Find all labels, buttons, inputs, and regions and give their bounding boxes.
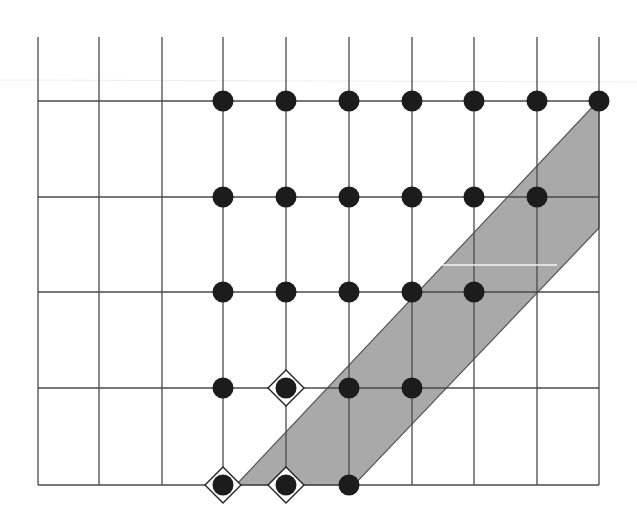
diagram-canvas	[0, 0, 637, 519]
lattice-point	[339, 187, 360, 208]
lattice-point	[527, 91, 548, 112]
lattice-point	[339, 378, 360, 399]
lattice-point	[213, 282, 234, 303]
lattice-point	[339, 282, 360, 303]
lattice-point	[276, 378, 297, 399]
lattice-point	[276, 475, 297, 496]
lattice-point	[276, 91, 297, 112]
lattice-point	[527, 187, 548, 208]
lattice-point	[402, 378, 423, 399]
lattice-point	[464, 282, 485, 303]
lattice-point	[213, 91, 234, 112]
lattice-point	[276, 282, 297, 303]
lattice-point	[402, 187, 423, 208]
lattice-point	[464, 91, 485, 112]
scan-artifact-line	[0, 80, 637, 82]
lattice-point	[213, 378, 234, 399]
lattice-point	[589, 91, 610, 112]
lattice-point	[339, 91, 360, 112]
lattice-point	[339, 475, 360, 496]
lattice-point	[464, 187, 485, 208]
lattice-point	[213, 187, 234, 208]
lattice-point	[276, 187, 297, 208]
lattice-point	[402, 91, 423, 112]
lattice-point	[402, 282, 423, 303]
lattice-point	[213, 475, 234, 496]
lattice-diagram	[0, 0, 637, 519]
